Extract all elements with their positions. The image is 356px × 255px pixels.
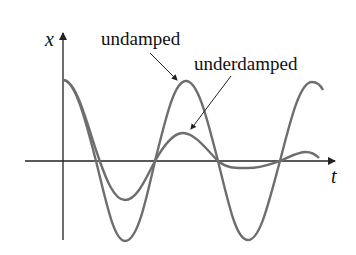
underdamped-pointer-arrow <box>191 76 231 129</box>
t-axis-label: t <box>331 166 337 186</box>
underdamped-label: underdamped <box>194 54 297 73</box>
undamped-label: undamped <box>101 29 180 48</box>
x-axis-label: x <box>45 29 54 49</box>
undamped-pointer-arrow <box>150 53 177 80</box>
damped-oscillation-diagram: x t undamped underdamped <box>0 0 356 255</box>
